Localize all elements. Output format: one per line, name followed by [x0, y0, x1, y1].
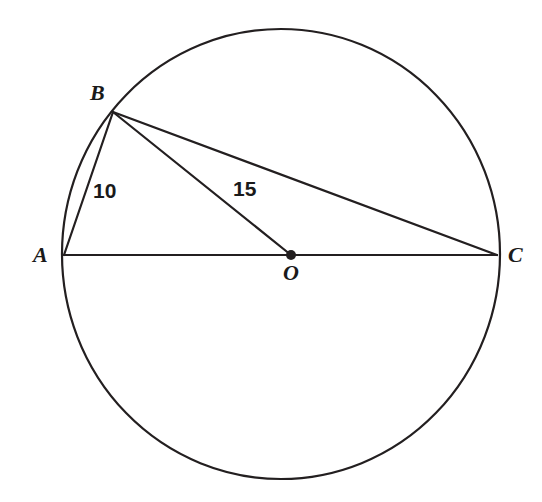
segment-bc — [113, 112, 497, 255]
point-label-c: C — [508, 244, 523, 266]
segment-bo-radius — [113, 112, 291, 255]
point-label-o: O — [283, 262, 299, 284]
geometry-canvas — [0, 0, 542, 502]
geometry-figure: A B C O 10 15 — [0, 0, 542, 502]
point-label-a: A — [33, 244, 48, 266]
center-point-o-dot — [286, 250, 296, 260]
measurement-label-ab: 10 — [93, 180, 116, 201]
point-label-b: B — [90, 82, 105, 104]
measurement-label-bo: 15 — [233, 178, 256, 199]
